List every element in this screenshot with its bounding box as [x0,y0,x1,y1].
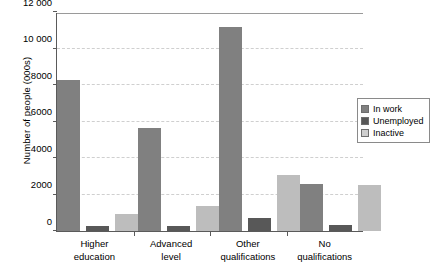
y-tick-label: 0 [47,215,52,226]
bar [219,27,242,231]
bar [196,206,219,231]
x-axis-labels: HighereducationAdvancedlevelOtherqualifi… [56,238,363,263]
y-tick-label: 8000 [31,69,52,80]
y-tick-label: 4000 [31,142,52,153]
x-axis-label-line: level [133,251,210,264]
x-axis-label-line: Higher [56,238,133,251]
bar-group [57,13,138,231]
x-axis-label: Otherqualifications [210,238,287,263]
bar [329,225,352,231]
bar [57,80,80,231]
legend-item: Inactive [361,127,424,138]
legend-item: Unemployed [361,115,424,126]
x-axis-label-line: Other [210,238,287,251]
bar [358,185,381,231]
legend-label: In work [373,104,402,114]
x-axis-label-line: Advanced [133,238,210,251]
bar-group [219,13,300,231]
bar [167,226,190,231]
y-tick-mark [53,11,57,12]
bar [138,128,161,231]
plot-area: 0200040006000800010 00012 000 [56,13,363,232]
legend-swatch [361,117,369,125]
y-tick-label: 6000 [31,106,52,117]
y-tick-label: 12 000 [23,0,52,7]
x-tick-mark [134,231,135,236]
bar [277,175,300,231]
x-axis-label: Advancedlevel [133,238,210,263]
bar [115,214,138,231]
y-tick-label: 10 000 [23,33,52,44]
x-axis-label: Noqualifications [286,238,363,263]
x-axis-label-line: qualifications [210,251,287,264]
x-axis-label-line: education [56,251,133,264]
bar-group [138,13,219,231]
x-tick-mark [287,231,288,236]
bar [86,226,109,231]
legend-item: In work [361,103,424,114]
legend-label: Unemployed [373,116,424,126]
bar [248,218,271,231]
legend-swatch [361,129,369,137]
bar-groups [57,13,363,231]
x-axis-label-line: qualifications [286,251,363,264]
bar [300,184,323,231]
legend-swatch [361,105,369,113]
chart-legend: In workUnemployedInactive [357,98,430,143]
x-axis-label: Highereducation [56,238,133,263]
x-tick-mark [210,231,211,236]
x-axis-label-line: No [286,238,363,251]
legend-label: Inactive [373,128,404,138]
y-tick-label: 2000 [31,179,52,190]
bar-chart: Number of people (000s) 0200040006000800… [0,0,440,270]
